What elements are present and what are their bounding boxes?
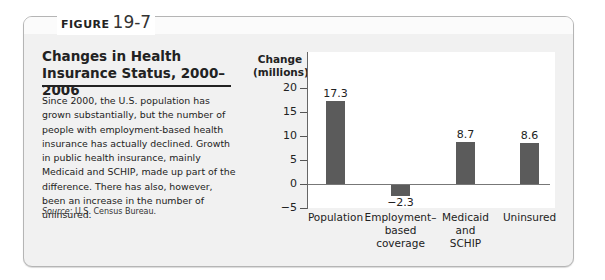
title-rule [42, 85, 231, 87]
y-tick [300, 136, 307, 137]
bar-population [326, 101, 345, 184]
bar-uninsured [520, 143, 539, 184]
y-tick-label: 0 [273, 178, 297, 190]
figure-label: FIGURE19-7 [57, 9, 155, 35]
source-label: Source: [42, 207, 72, 216]
figure-title: Changes in Health Insurance Status, 2000… [42, 48, 242, 99]
y-tick-label: 15 [273, 106, 297, 118]
figure-word: FIGURE [61, 18, 110, 31]
y-axis-label-line-1: Change [253, 53, 307, 66]
y-tick [300, 160, 307, 161]
y-tick-label: 20 [273, 82, 297, 94]
value-label: −2.3 [376, 197, 426, 209]
zero-baseline [307, 184, 550, 185]
y-tick [300, 88, 307, 89]
y-tick [300, 184, 307, 185]
y-tick-label: −5 [273, 202, 297, 214]
y-tick [300, 112, 307, 113]
value-label: 8.7 [441, 129, 491, 141]
value-label: 17.3 [311, 88, 361, 100]
figure-source: Source: U.S. Census Bureau. [42, 207, 156, 216]
bar-medicaid-and-schip [456, 142, 475, 184]
y-axis-label-line-2: (millions) [253, 66, 307, 79]
source-text: U.S. Census Bureau. [72, 207, 156, 216]
category-label: Uninsured [490, 211, 570, 224]
value-label: 8.6 [505, 130, 555, 142]
bar-employment-based-coverage [391, 185, 410, 196]
y-tick-label: 10 [273, 130, 297, 142]
y-tick-label: 5 [273, 154, 297, 166]
y-tick [300, 208, 307, 209]
figure-caption: Since 2000, the U.S. population has grow… [42, 94, 237, 223]
figure-number: 19-7 [113, 12, 152, 32]
y-axis-label: Change (millions) [253, 53, 307, 79]
y-axis [307, 52, 308, 209]
